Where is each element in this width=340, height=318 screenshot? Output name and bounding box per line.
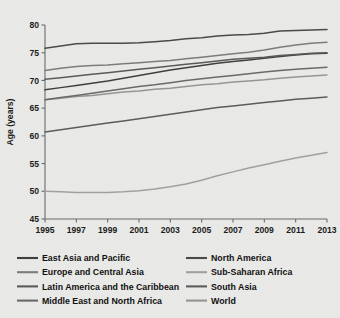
y-tick-label: 80 xyxy=(29,20,39,30)
x-tick-label: 1995 xyxy=(35,225,54,235)
y-axis-title: Age (years) xyxy=(5,98,15,145)
series-line-world xyxy=(45,75,327,100)
y-tick-label: 75 xyxy=(29,48,39,58)
y-axis-group: 4550556065707580 Age (years) xyxy=(5,20,45,224)
chart-svg: 4550556065707580 Age (years) 19951997199… xyxy=(0,0,340,318)
series-line-sub-saharan-africa xyxy=(45,152,327,192)
legend-label[interactable]: East Asia and Pacific xyxy=(42,253,130,263)
x-tick-label: 2001 xyxy=(129,225,148,235)
series-line-north-america xyxy=(45,29,327,48)
x-axis-group: 1995199719992001200320052007200920112013 xyxy=(35,219,336,235)
x-tick-label: 2009 xyxy=(255,225,274,235)
y-tick-label: 50 xyxy=(29,186,39,196)
x-tick-label: 2013 xyxy=(317,225,336,235)
x-tick-label: 2005 xyxy=(192,225,211,235)
y-tick-label: 55 xyxy=(29,159,39,169)
legend-label[interactable]: North America xyxy=(211,253,271,263)
legend-label[interactable]: Europe and Central Asia xyxy=(42,267,144,277)
legend-label[interactable]: Latin America and the Caribbean xyxy=(42,282,179,292)
x-tick-label: 1997 xyxy=(67,225,86,235)
y-tick-label: 70 xyxy=(29,76,39,86)
series-lines xyxy=(45,29,327,192)
y-tick-label: 65 xyxy=(29,103,39,113)
life-expectancy-chart: 4550556065707580 Age (years) 19951997199… xyxy=(0,0,340,318)
x-tick-label: 2007 xyxy=(223,225,242,235)
x-tick-label: 2003 xyxy=(161,225,180,235)
legend-label[interactable]: World xyxy=(211,296,236,306)
y-tick-label: 60 xyxy=(29,131,39,141)
x-axis-tick-labels: 1995199719992001200320052007200920112013 xyxy=(35,225,336,235)
legend-label[interactable]: Middle East and North Africa xyxy=(42,296,162,306)
y-axis-tick-labels: 4550556065707580 xyxy=(29,20,39,224)
legend-label[interactable]: Sub-Saharan Africa xyxy=(211,267,292,277)
legend-label[interactable]: South Asia xyxy=(211,282,257,292)
y-tick-label: 45 xyxy=(29,214,39,224)
series-line-south-asia xyxy=(45,97,327,132)
chart-legend: East Asia and PacificEurope and Central … xyxy=(17,253,292,306)
x-tick-label: 2011 xyxy=(286,225,305,235)
x-tick-label: 1999 xyxy=(98,225,117,235)
